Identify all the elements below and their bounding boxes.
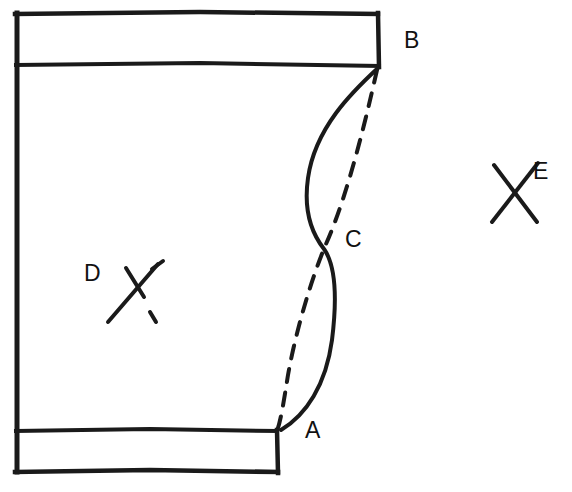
- marker-e-cross: [492, 163, 538, 222]
- upper-band-bottom-line: [16, 63, 379, 66]
- point-label-a: A: [305, 419, 321, 442]
- lower-band-right-edge: [277, 430, 278, 473]
- lower-band-top-line: [16, 429, 277, 431]
- diagram-drawing: [0, 0, 572, 492]
- point-label-d: D: [84, 262, 101, 285]
- point-label-e: E: [533, 160, 549, 183]
- point-label-c: C: [345, 228, 362, 251]
- point-label-b: B: [404, 29, 420, 52]
- diagram-canvas: A B C D E: [0, 0, 572, 492]
- lower-band-bottom-line: [15, 470, 278, 472]
- upper-band-top-line: [15, 12, 378, 14]
- marker-d-cross: [108, 261, 163, 322]
- upper-band-right-edge: [378, 13, 379, 67]
